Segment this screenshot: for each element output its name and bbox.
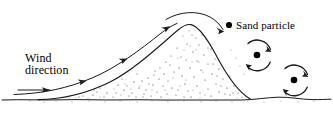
sand-dune-diagram: Winddirection Sand particle: [0, 0, 333, 122]
sand-stipple-fill: [47, 30, 249, 101]
sand-particle-marker: [226, 22, 232, 28]
lee-vortex-lower: [283, 65, 309, 96]
wind-direction-arrow: [18, 87, 50, 93]
sand-particle-label: Sand particle: [236, 19, 295, 31]
lee-vortex-upper: [246, 40, 272, 71]
wind-direction-label: Winddirection: [25, 52, 69, 76]
dune-outline: [38, 24, 250, 99]
ground-stipple: [30, 50, 315, 103]
wind-direction-label-line2: direction: [25, 64, 69, 76]
crest-streamline-arc: [166, 13, 224, 35]
